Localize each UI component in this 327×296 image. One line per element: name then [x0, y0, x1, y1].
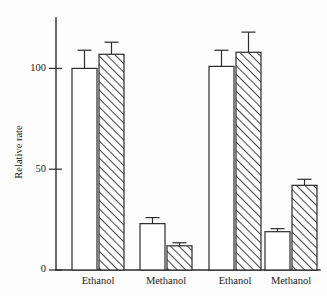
bar-open-methanol-2: [265, 232, 290, 270]
bar-hatched-methanol-1: [167, 246, 192, 270]
bar-group-methanol-1: [140, 218, 192, 270]
y-tick-label-0: 0: [41, 263, 46, 274]
bar-group-ethanol-2: [209, 32, 261, 270]
bar-hatched-ethanol-1: [99, 54, 124, 270]
bar-hatched-ethanol-2: [236, 52, 261, 270]
chart-canvas: 0 50 100 Relative rate: [0, 0, 327, 296]
bar-hatched-methanol-2: [292, 185, 317, 270]
x-tick-label-ethanol-2: Ethanol: [219, 275, 252, 286]
bar-open-ethanol-2: [209, 66, 234, 270]
bar-open-ethanol-1: [72, 68, 97, 270]
bar-group-ethanol-1: [72, 42, 124, 270]
bar-open-methanol-1: [140, 224, 165, 270]
y-tick-label-100: 100: [30, 62, 46, 73]
x-tick-label-methanol-2: Methanol: [271, 275, 311, 286]
x-tick-label-ethanol-1: Ethanol: [82, 275, 115, 286]
bar-group-methanol-2: [265, 179, 317, 270]
y-axis-label: Relative rate: [13, 125, 24, 179]
y-axis-tick-labels: 0 50 100: [30, 62, 46, 275]
x-axis-tick-labels: Ethanol Methanol Ethanol Methanol: [82, 275, 312, 286]
x-tick-label-methanol-1: Methanol: [146, 275, 186, 286]
y-tick-label-50: 50: [36, 163, 47, 174]
bar-chart-figure: 0 50 100 Relative rate: [0, 0, 327, 296]
